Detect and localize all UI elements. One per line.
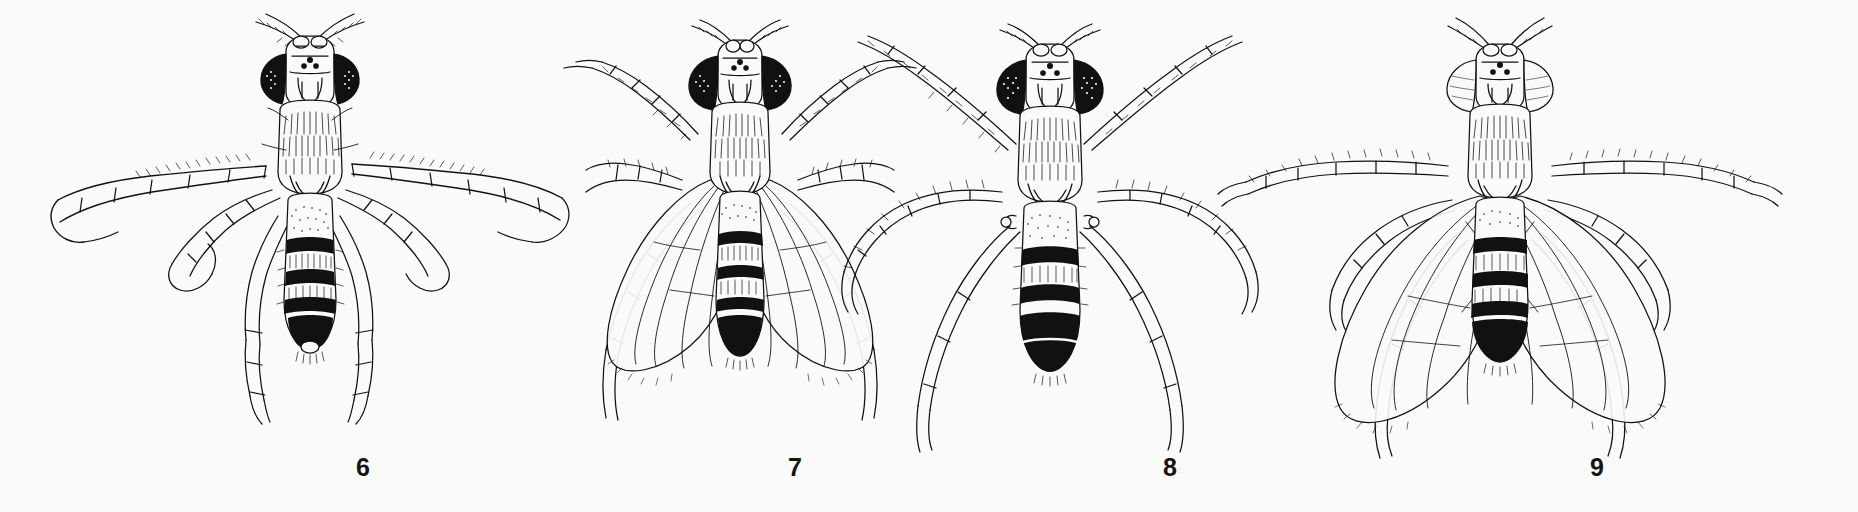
- fly-9-drawing: [1180, 0, 1820, 512]
- figure-label-7: 7: [775, 455, 815, 480]
- figure-9: [1180, 0, 1820, 512]
- figure-label-9: 9: [1577, 455, 1617, 480]
- fly-6-drawing: [40, 0, 580, 512]
- figure-label-6: 6: [343, 455, 383, 480]
- figure-6: [40, 0, 580, 512]
- illustration-plate: 6: [0, 0, 1858, 512]
